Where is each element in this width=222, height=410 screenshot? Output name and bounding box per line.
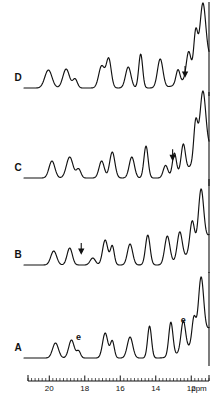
trace-label-a: A xyxy=(14,342,21,353)
annotations-group: DCBAee xyxy=(14,66,187,353)
arrow-down-icon xyxy=(79,243,84,254)
peak-annotation-letter: e xyxy=(76,332,81,342)
nmr-spectrum-figure: DCBAee 2018161412ppm xyxy=(0,0,222,410)
spectrum-trace-b xyxy=(24,189,209,265)
ppm-axis: 2018161412ppm xyxy=(28,375,209,393)
axis-tick-label: 14 xyxy=(151,384,160,393)
peak-annotation-letter: e xyxy=(181,315,186,325)
axis-unit-label: ppm xyxy=(191,384,207,393)
axis-tick-label: 18 xyxy=(80,384,89,393)
axis-tick-label: 16 xyxy=(116,384,125,393)
spectrum-trace-c xyxy=(24,91,209,178)
trace-label-c: C xyxy=(14,162,21,173)
trace-label-d: D xyxy=(14,72,21,83)
traces-group xyxy=(24,2,209,366)
spectrum-trace-d xyxy=(24,3,209,88)
spectrum-canvas: DCBAee 2018161412ppm xyxy=(0,0,222,410)
arrow-down-icon xyxy=(183,66,188,77)
axis-tick-label: 20 xyxy=(45,384,54,393)
trace-label-b: B xyxy=(14,249,21,260)
